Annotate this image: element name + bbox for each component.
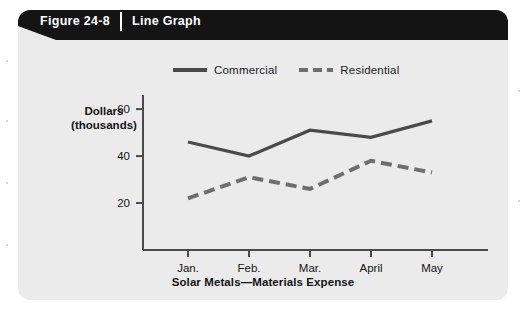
x-axis-tick-label: Feb. xyxy=(237,262,260,274)
figure-number-label: Figure 24-8 xyxy=(40,14,110,28)
x-axis-ticks: Jan.Feb.Mar.AprilMay xyxy=(177,250,443,274)
header-corner-notch xyxy=(18,26,56,40)
page-edge-mark xyxy=(6,60,8,62)
page-edge-mark xyxy=(6,244,8,246)
figure-type-title: Line Graph xyxy=(132,14,201,28)
header-divider xyxy=(120,12,122,31)
y-axis-tick-label: 60 xyxy=(117,103,130,115)
y-axis-tick-label: 20 xyxy=(117,197,130,209)
y-axis-ticks: 204060 xyxy=(117,103,143,209)
page-edge-mark xyxy=(6,120,8,122)
figure-container: Figure 24-8 Line Graph Commercial Reside… xyxy=(0,0,526,316)
x-axis-tick-label: May xyxy=(421,262,443,274)
x-axis-title: Solar Metals—Materials Expense xyxy=(18,276,508,288)
series-line-residential xyxy=(188,161,432,199)
series-lines xyxy=(188,121,432,198)
series-line-commercial xyxy=(188,121,432,156)
x-axis-tick-label: Jan. xyxy=(177,262,199,274)
page-edge-mark xyxy=(518,200,520,202)
page-edge-mark xyxy=(6,182,8,184)
x-axis-tick-label: April xyxy=(359,262,382,274)
y-axis-tick-label: 40 xyxy=(117,150,130,162)
page-edge-mark xyxy=(518,90,520,92)
plot-svg: 204060 Jan.Feb.Mar.AprilMay xyxy=(18,40,508,300)
x-axis-tick-label: Mar. xyxy=(299,262,321,274)
chart-area: Commercial Residential Dollars (thousand… xyxy=(18,40,508,300)
